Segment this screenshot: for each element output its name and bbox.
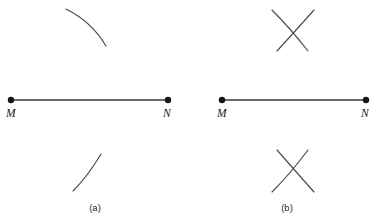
- upper-arc-icon: [66, 9, 106, 46]
- point-label-n: N: [360, 107, 370, 119]
- point-label-m: M: [216, 107, 228, 119]
- lower-arc-from-n-icon: [277, 150, 314, 192]
- panel-caption-a: (a): [89, 202, 101, 213]
- figure-canvas: M N (a) M N (b): [0, 0, 387, 219]
- endpoint-dot-n: [363, 97, 369, 103]
- panel-caption-b: (b): [281, 202, 293, 213]
- panel-b-upper-arcs: [272, 10, 314, 51]
- point-label-n: N: [162, 107, 172, 119]
- upper-arc-from-n-icon: [277, 10, 314, 51]
- lower-arc-from-m-icon: [272, 150, 308, 192]
- endpoint-dot-n: [165, 97, 171, 103]
- upper-arc-from-m-icon: [272, 10, 308, 51]
- panel-a: M N (a): [5, 9, 172, 213]
- point-label-m: M: [5, 107, 17, 119]
- panel-b: M N (b): [216, 10, 370, 213]
- geometry-figure: M N (a) M N (b): [0, 0, 387, 219]
- lower-arc-icon: [73, 154, 101, 191]
- endpoint-dot-m: [8, 97, 14, 103]
- endpoint-dot-m: [219, 97, 225, 103]
- panel-b-lower-arcs: [272, 150, 314, 192]
